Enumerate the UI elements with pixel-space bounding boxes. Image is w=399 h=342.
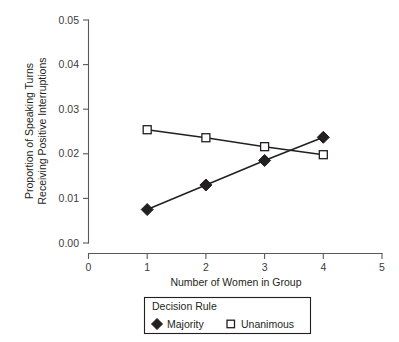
legend-entry-unanimous-label: Unanimous xyxy=(241,318,294,330)
x-tick-label-0: 0 xyxy=(86,261,92,273)
x-tick-label-5: 5 xyxy=(379,261,385,273)
y-tick-label-1: 0.01 xyxy=(59,192,80,204)
y-tick-label-4: 0.04 xyxy=(59,58,80,70)
legend-entry-majority-label: Majority xyxy=(167,318,205,330)
x-tick-label-4: 4 xyxy=(320,261,326,273)
y-tick-label-0: 0.00 xyxy=(59,237,80,249)
y-tick-label-3: 0.03 xyxy=(59,103,80,115)
x-tick-label-1: 1 xyxy=(144,261,150,273)
y-axis-title-line2: Receiving Positive Interruptions xyxy=(36,57,48,204)
chart-figure: 0.00 0.01 0.02 0.03 0.04 0.05 0 1 2 3 4 … xyxy=(0,0,399,342)
y-tick-label-2: 0.02 xyxy=(59,147,80,159)
legend-title: Decision Rule xyxy=(152,300,217,312)
y-axis-ticks xyxy=(83,20,89,243)
x-axis-title: Number of Women in Group xyxy=(170,276,301,288)
series-line-unanimous xyxy=(147,130,323,155)
x-tick-label-3: 3 xyxy=(262,261,268,273)
series-line-majority xyxy=(147,137,323,209)
x-axis-ticks xyxy=(89,254,383,260)
line-chart-canvas: 0.00 0.01 0.02 0.03 0.04 0.05 0 1 2 3 4 … xyxy=(0,0,399,342)
legend: Decision Rule Majority Unanimous xyxy=(145,298,311,334)
y-tick-label-5: 0.05 xyxy=(59,14,80,26)
x-tick-label-2: 2 xyxy=(203,261,209,273)
open-square-icon xyxy=(227,320,235,328)
y-axis-title-line1: Proportion of Speaking Turns xyxy=(23,63,35,199)
